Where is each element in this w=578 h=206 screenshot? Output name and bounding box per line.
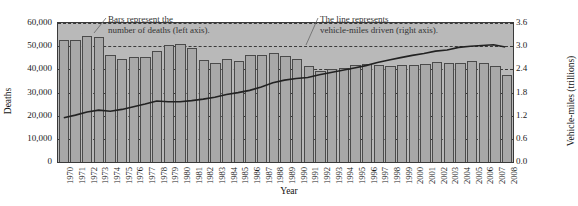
x-axis-tick-label: 2005 (475, 167, 484, 184)
x-axis-tick-label: 1983 (218, 167, 227, 184)
x-axis-tick-label: 1986 (253, 167, 262, 184)
y-axis-right-title: Vehicle-miles (trillions) (566, 36, 576, 166)
x-axis-tick-label: 1982 (206, 167, 215, 184)
x-axis-tick-label: 1974 (113, 167, 122, 184)
line-series (58, 23, 513, 162)
x-axis-tick-label: 2002 (440, 167, 449, 184)
x-axis-tick-label: 1979 (171, 167, 180, 184)
x-axis-tick-label: 2006 (486, 167, 495, 184)
x-axis-tick-label: 2003 (451, 167, 460, 184)
x-axis-tick-label: 2004 (463, 167, 472, 184)
y-axis-right-tick-label: 0.0 (516, 157, 527, 166)
line-annotation-line1: The line represents (320, 14, 438, 25)
y-axis-left-tick-label: 20,000 (27, 111, 52, 120)
y-axis-right-tick-label: 3.6 (516, 18, 527, 27)
y-axis-left-tick-label: 10,000 (27, 134, 52, 143)
y-axis-right-tick-label: 3.0 (516, 41, 527, 50)
x-axis-tick-label: 1985 (241, 167, 250, 184)
plot-area (57, 22, 514, 163)
x-axis-tick-label: 1977 (148, 167, 157, 184)
x-axis-tick-label: 1998 (393, 167, 402, 184)
x-axis-tick-label: 1987 (265, 167, 274, 184)
y-axis-left-tick-label: 0 (48, 157, 53, 166)
y-axis-left-tick-label: 50,000 (27, 41, 52, 50)
x-axis-tick-label: 1970 (66, 167, 75, 184)
x-axis-tick-label: 2007 (498, 167, 507, 184)
x-axis-tick-label: 2001 (428, 167, 437, 184)
x-axis-tick-label: 1975 (125, 167, 134, 184)
x-axis-tick-label: 1971 (78, 167, 87, 184)
x-axis-tick-label: 1993 (335, 167, 344, 184)
bars-annotation: Bars represent the number of deaths (lef… (108, 14, 210, 35)
x-axis-tick-label: 1978 (160, 167, 169, 184)
x-axis-tick-label: 1996 (370, 167, 379, 184)
x-axis-tick-label: 2000 (416, 167, 425, 184)
x-axis-tick-label: 1997 (381, 167, 390, 184)
x-axis-tick-label: 1988 (276, 167, 285, 184)
x-axis-tick-label: 1980 (183, 167, 192, 184)
line-annotation-line2: vehicle-miles driven (right axis). (320, 25, 438, 36)
x-axis-tick-label: 2008 (510, 167, 519, 184)
x-axis-tick-label: 1994 (346, 167, 355, 184)
chart-figure: Deaths Vehicle-miles (trillions) Year 01… (0, 0, 578, 206)
x-axis-title: Year (0, 186, 578, 196)
x-axis-tick-label: 1984 (230, 167, 239, 184)
vehicle-miles-line (64, 45, 505, 118)
x-axis-tick-label: 1972 (90, 167, 99, 184)
bars-annotation-line1: Bars represent the (108, 14, 210, 25)
bars-annotation-line2: number of deaths (left axis). (108, 25, 210, 36)
x-axis-tick-label: 1989 (288, 167, 297, 184)
x-axis-tick-label: 1973 (101, 167, 110, 184)
x-axis-tick-label: 1976 (136, 167, 145, 184)
x-axis-tick-labels: 1970197119721973197419751976197719781979… (57, 164, 514, 186)
y-axis-left-tick-label: 40,000 (27, 64, 52, 73)
y-axis-left-tick-label: 60,000 (27, 18, 52, 27)
y-axis-right-tick-label: 1.8 (516, 88, 527, 97)
x-axis-tick-label: 1991 (311, 167, 320, 184)
line-annotation: The line represents vehicle-miles driven… (320, 14, 438, 35)
y-axis-left-tick-label: 30,000 (27, 88, 52, 97)
y-axis-right-tick-label: 0.6 (516, 134, 527, 143)
x-axis-tick-label: 1981 (195, 167, 204, 184)
y-axis-right-ticks: 0.00.61.21.82.43.03.6 (516, 0, 556, 206)
y-axis-left-ticks: 010,00020,00030,00040,00050,00060,000 (0, 0, 52, 206)
y-axis-right-tick-label: 2.4 (516, 64, 527, 73)
x-axis-tick-label: 1992 (323, 167, 332, 184)
y-axis-right-tick-label: 1.2 (516, 111, 527, 120)
x-axis-tick-label: 1999 (405, 167, 414, 184)
x-axis-tick-label: 1995 (358, 167, 367, 184)
x-axis-tick-label: 1990 (300, 167, 309, 184)
